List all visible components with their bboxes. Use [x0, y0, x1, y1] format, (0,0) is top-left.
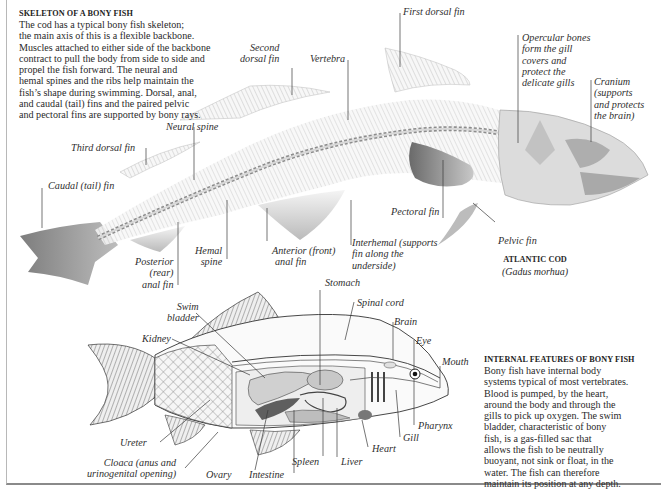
label-pharynx: Pharynx [418, 420, 453, 431]
description-line: and pectoral fins are supported by bony … [19, 109, 210, 120]
label-vertebra: Vertebra [310, 53, 345, 64]
label-line: form the gill [522, 43, 590, 54]
label-line: Posterior [135, 256, 174, 267]
label-gill: Gill [403, 432, 419, 443]
label-line: Hemal [195, 245, 222, 256]
label-third-dorsal-fin: Third dorsal fin [71, 142, 135, 153]
label-line: the brain) [594, 110, 644, 121]
description-line: Blood is pumped, by the heart, [484, 388, 628, 399]
label-line: protect the [522, 66, 590, 77]
description-line: maintain its position at any depth. [484, 478, 628, 489]
label-line: anal fin [135, 279, 174, 290]
label-line: Second [240, 42, 279, 53]
label-line: (supports [594, 87, 644, 98]
description-line: and caudal (tail) fins and the paired pe… [19, 98, 210, 109]
label-spinal-cord: Spinal cord [357, 297, 404, 308]
skeleton-heading: SKELETON OF A BONY FISH [19, 9, 133, 18]
label-line: Swim [167, 301, 199, 312]
label-swim-bladder: Swim bladder [167, 301, 199, 324]
label-line: underside) [352, 260, 438, 271]
label-cloaca: Cloaca (anus and urinogenital opening) [87, 457, 176, 480]
label-liver: Liver [341, 456, 363, 467]
label-intestine: Intestine [249, 469, 284, 480]
label-anterior-anal-fin: Anterior (front) anal fin [272, 245, 335, 268]
label-ovary: Ovary [206, 469, 231, 480]
description-line: the main axis of this is a flexible back… [19, 30, 210, 41]
description-line: allows the fish to be neutrally [484, 444, 628, 455]
label-pelvic-fin: Pelvic fin [498, 235, 537, 246]
label-line: spine [195, 256, 222, 267]
label-heart: Heart [372, 443, 396, 454]
label-first-dorsal-fin: First dorsal fin [403, 6, 465, 17]
label-line: urinogenital opening) [87, 468, 176, 479]
description-line: Bony fish have internal body [484, 365, 628, 376]
internal-description: Bony fish have internal body systems typ… [484, 365, 628, 489]
description-line: systems typical of most vertebrates. [484, 376, 628, 387]
label-line: Opercular bones [522, 32, 590, 43]
label-line: and protects [594, 99, 644, 110]
description-line: hemal spines and the ribs help maintain … [19, 75, 210, 86]
description-line: buoyant, not sink or float, in the [484, 455, 628, 466]
description-line: propel the fish forward. The neural and [19, 64, 210, 75]
internal-heading: INTERNAL FEATURES OF BONY FISH [484, 355, 635, 364]
label-line: delicate gills [522, 77, 590, 88]
species-caption: ATLANTIC COD (Gadus morhua) [480, 254, 590, 277]
label-kidney: Kidney [142, 333, 171, 344]
label-neural-spine: Neural spine [166, 121, 218, 132]
label-line: Cloaca (anus and [87, 457, 176, 468]
label-interhemal: Interhemal (supports fin along the under… [352, 237, 438, 271]
species-common-name: ATLANTIC COD [480, 254, 590, 266]
label-line: anal fin [272, 256, 335, 267]
label-caudal-fin: Caudal (tail) fin [48, 180, 114, 191]
label-hemal-spine: Hemal spine [195, 245, 222, 268]
label-line: Anterior (front) [272, 245, 335, 256]
label-pectoral-fin: Pectoral fin [391, 206, 439, 217]
label-line: Interhemal (supports [352, 237, 438, 248]
label-line: (rear) [135, 267, 174, 278]
label-brain: Brain [394, 316, 417, 327]
species-scientific-name: (Gadus morhua) [480, 266, 590, 278]
label-spleen: Spleen [292, 456, 319, 467]
label-ureter: Ureter [120, 437, 147, 448]
label-opercular-bones: Opercular bones form the gill covers and… [522, 32, 590, 88]
label-line: dorsal fin [240, 53, 279, 64]
label-eye: Eye [416, 335, 431, 346]
label-line: fin along the [352, 248, 438, 259]
description-line: around the body and through the [484, 399, 628, 410]
skeleton-description: The cod has a typical bony fish skeleton… [19, 19, 210, 121]
label-cranium: Cranium (supports and protects the brain… [594, 76, 644, 121]
label-line: bladder [167, 312, 199, 323]
label-mouth: Mouth [442, 356, 469, 367]
label-second-dorsal-fin: Second dorsal fin [240, 42, 279, 65]
description-line: Muscles attached to either side of the b… [19, 42, 210, 53]
label-line: covers and [522, 55, 590, 66]
label-line: Cranium [594, 76, 644, 87]
description-line: fish’s shape during swimming. Dorsal, an… [19, 87, 210, 98]
description-line: gills to pick up oxygen. The swim [484, 410, 628, 421]
description-line: contract to pull the body from side to s… [19, 53, 210, 64]
description-line: water. The fish can therefore [484, 467, 628, 478]
label-posterior-anal-fin: Posterior (rear) anal fin [135, 256, 174, 290]
description-line: bladder, characteristic of bony [484, 421, 628, 432]
description-line: fish, is a gas-filled sac that [484, 433, 628, 444]
label-stomach: Stomach [325, 277, 360, 288]
description-line: The cod has a typical bony fish skeleton… [19, 19, 210, 30]
